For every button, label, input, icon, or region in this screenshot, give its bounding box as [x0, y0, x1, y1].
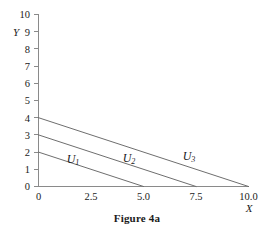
y-tick-label-1: 1: [25, 164, 30, 175]
y-tick-label-10: 10: [20, 9, 31, 20]
y-tick-label-3: 3: [25, 130, 30, 141]
curve-label-u2-sub: 2: [131, 157, 135, 166]
curve-label-u3: U3: [183, 149, 196, 164]
y-tick-label-5: 5: [25, 95, 30, 106]
y-tick-label-0: 0: [25, 181, 30, 192]
y-axis-tick-labels: 10 9 8 7 6 5 4 3 2 1 0: [20, 9, 31, 192]
line-u2: [39, 135, 197, 187]
curve-label-u3-sub: 3: [190, 155, 195, 164]
y-tick-label-4: 4: [25, 113, 31, 124]
y-tick-label-8: 8: [25, 44, 30, 55]
x-tick-label-10-0: 10.0: [239, 191, 257, 202]
x-tick-label-5-0: 5.0: [137, 191, 150, 202]
y-tick-label-2: 2: [25, 147, 30, 158]
curve-labels-group: U1 U2 U3: [67, 149, 196, 167]
y-tick-label-6: 6: [25, 78, 30, 89]
y-axis-title: Y: [13, 26, 21, 38]
x-axis-tick-labels: 0 2.5 5.0 7.5 10.0: [36, 191, 258, 202]
x-tick-label-2-5: 2.5: [84, 191, 97, 202]
indifference-curve-chart: 10 9 8 7 6 5 4 3 2 1 0 0 2.5 5.0 7.5 10.…: [0, 0, 274, 234]
curve-label-u1: U1: [67, 152, 80, 167]
figure-4a: 10 9 8 7 6 5 4 3 2 1 0 0 2.5 5.0 7.5 10.…: [0, 0, 274, 234]
y-axis-ticks: [34, 15, 39, 187]
y-tick-label-9: 9: [25, 27, 30, 38]
figure-caption: Figure 4a: [0, 212, 274, 224]
y-tick-label-7: 7: [25, 61, 30, 72]
curve-label-u1-sub: 1: [75, 158, 79, 167]
curve-label-u2: U2: [123, 151, 136, 166]
x-tick-label-0: 0: [36, 191, 41, 202]
x-tick-label-7-5: 7.5: [189, 191, 202, 202]
